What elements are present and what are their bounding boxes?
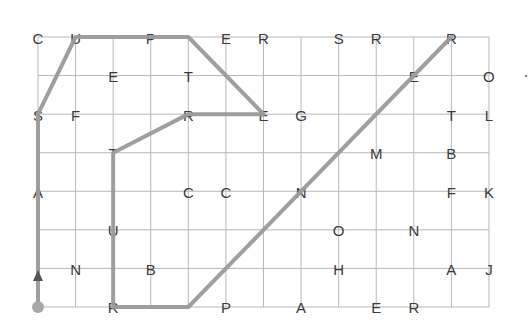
grid-letter: K	[484, 184, 494, 201]
grid-letter: T	[447, 107, 456, 124]
grid-letter: T	[184, 68, 193, 85]
grid-letter: C	[33, 30, 44, 47]
grid-letter: O	[333, 222, 345, 239]
grid-lines	[38, 37, 489, 307]
grid-letter: L	[485, 107, 493, 124]
grid-letter: N	[408, 222, 419, 239]
grid-letter: C	[220, 184, 231, 201]
grid-letter: N	[70, 261, 81, 278]
grid-letter: F	[447, 184, 456, 201]
grid-letter: M	[370, 145, 383, 162]
grid-letter: E	[371, 299, 381, 316]
grid-letter: O	[483, 68, 495, 85]
grid-letter: B	[146, 261, 156, 278]
grid-letter: R	[408, 299, 419, 316]
grid-letter: E	[108, 68, 118, 85]
grid-letter: A	[296, 299, 306, 316]
grid-letter: E	[221, 30, 231, 47]
solution-path	[38, 37, 451, 307]
word-path-puzzle-board: CUPERSRRETEOSFREGTLTMBACCNFKUONNBHAJRPAE…	[0, 0, 529, 325]
direction-arrow-icon	[33, 270, 43, 281]
path-line	[38, 37, 451, 307]
grid-letter: H	[333, 261, 344, 278]
grid-letter: P	[221, 299, 231, 316]
stray-dot	[525, 75, 527, 77]
grid-letter: F	[71, 107, 80, 124]
grid-letter: G	[295, 107, 307, 124]
grid-letter: C	[183, 184, 194, 201]
start-dot-icon	[32, 301, 44, 313]
grid-letter: J	[485, 261, 493, 278]
grid-letter: A	[446, 261, 456, 278]
grid-letter: B	[446, 145, 456, 162]
grid-letter: R	[371, 30, 382, 47]
grid-letter: S	[334, 30, 344, 47]
grid-letter: R	[258, 30, 269, 47]
